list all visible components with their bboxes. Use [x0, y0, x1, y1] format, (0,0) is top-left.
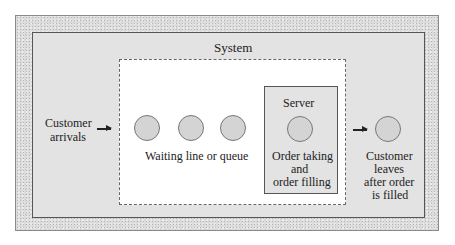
server-label-line3: order filling	[273, 175, 331, 189]
output-label-line3: after order	[364, 175, 414, 189]
departing-customer-circle	[375, 116, 401, 142]
server-label-line2: and	[291, 162, 308, 176]
server-customer-circle	[287, 116, 313, 142]
queue-customer-circle	[178, 115, 204, 141]
system-label: System	[214, 41, 252, 55]
departure-arrow-icon	[353, 129, 367, 131]
server-label-line1: Order taking	[272, 149, 333, 163]
output-label-line4: is filled	[372, 188, 408, 202]
arrivals-label-line1: Customer	[45, 116, 92, 130]
output-label-line2: leaves	[374, 162, 404, 176]
queue-customer-circle	[220, 115, 246, 141]
output-label-line1: Customer	[366, 149, 413, 163]
queue-customer-circle	[134, 115, 160, 141]
queue-label: Waiting line or queue	[145, 149, 248, 163]
arrivals-label-line2: arrivals	[50, 130, 86, 144]
server-title: Server	[283, 96, 314, 110]
arrival-arrow-icon	[97, 128, 111, 130]
